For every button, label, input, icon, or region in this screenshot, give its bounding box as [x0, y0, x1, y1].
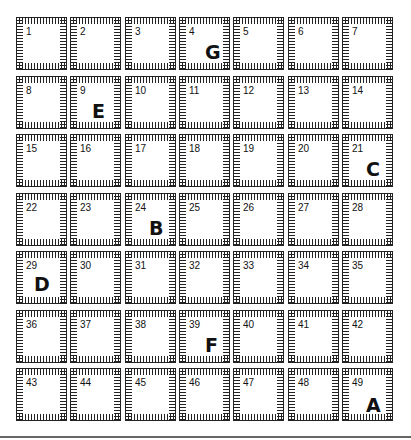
cell-number: 47	[243, 377, 254, 388]
cell-number: 6	[298, 26, 304, 37]
grid-cell-26: 26	[233, 193, 284, 246]
hatched-border-left	[288, 76, 295, 129]
hatched-border-right	[169, 134, 176, 187]
grid-cell-48: 48	[288, 368, 339, 421]
grid-cell-37: 37	[70, 310, 121, 363]
hatched-border-left	[342, 310, 349, 363]
cell-number: 42	[352, 319, 363, 330]
grid-cell-42: 42	[342, 310, 393, 363]
cell-number: 15	[26, 143, 37, 154]
grid-cell-4: 4G	[179, 17, 230, 70]
hatched-border-left	[233, 251, 240, 304]
cell-number: 29	[26, 260, 37, 271]
cell-number: 32	[189, 260, 200, 271]
hatched-border-right	[114, 251, 121, 304]
hatched-border-left	[342, 368, 349, 421]
cell-number: 36	[26, 319, 37, 330]
cell-number: 12	[243, 85, 254, 96]
grid-cell-19: 19	[233, 134, 284, 187]
grid-cell-40: 40	[233, 310, 284, 363]
hatched-border-left	[179, 76, 186, 129]
hatched-border-left	[125, 368, 132, 421]
cell-number: 24	[135, 202, 146, 213]
grid-cell-32: 32	[179, 251, 230, 304]
hatched-border-right	[386, 193, 393, 246]
cell-number: 35	[352, 260, 363, 271]
grid-cell-14: 14	[342, 76, 393, 129]
hatched-border-left	[16, 368, 23, 421]
grid-cell-35: 35	[342, 251, 393, 304]
hatched-border-left	[70, 76, 77, 129]
grid-cell-30: 30	[70, 251, 121, 304]
hatched-border-right	[60, 368, 67, 421]
hatched-border-right	[114, 193, 121, 246]
hatched-border-left	[179, 17, 186, 70]
grid-cell-44: 44	[70, 368, 121, 421]
grid-cell-3: 3	[125, 17, 176, 70]
grid-cell-21: 21C	[342, 134, 393, 187]
hatched-border-right	[114, 17, 121, 70]
hatched-border-left	[70, 368, 77, 421]
hatched-border-left	[342, 17, 349, 70]
hatched-border-left	[179, 310, 186, 363]
cell-number: 45	[135, 377, 146, 388]
hatched-border-right	[60, 76, 67, 129]
cell-number: 31	[135, 260, 146, 271]
hatched-border-left	[125, 310, 132, 363]
hatched-border-right	[332, 251, 339, 304]
hatched-border-left	[342, 134, 349, 187]
hatched-border-right	[332, 368, 339, 421]
hatched-border-left	[233, 310, 240, 363]
grid-cell-39: 39F	[179, 310, 230, 363]
hatched-border-left	[125, 251, 132, 304]
cell-number: 9	[80, 85, 86, 96]
hatched-border-left	[233, 368, 240, 421]
hatched-border-left	[288, 134, 295, 187]
cell-number: 5	[243, 26, 249, 37]
cell-letter-f: F	[205, 334, 218, 356]
grid-cell-28: 28	[342, 193, 393, 246]
cell-number: 18	[189, 143, 200, 154]
grid-cell-46: 46	[179, 368, 230, 421]
hatched-border-right	[169, 17, 176, 70]
grid-cell-41: 41	[288, 310, 339, 363]
hatched-border-left	[70, 134, 77, 187]
hatched-border-right	[60, 193, 67, 246]
grid-cell-6: 6	[288, 17, 339, 70]
cell-number: 40	[243, 319, 254, 330]
hatched-border-left	[125, 193, 132, 246]
hatched-border-left	[288, 310, 295, 363]
cell-number: 30	[80, 260, 91, 271]
hatched-border-right	[114, 368, 121, 421]
hatched-border-right	[169, 76, 176, 129]
hatched-border-right	[332, 134, 339, 187]
cell-number: 46	[189, 377, 200, 388]
cell-letter-c: C	[366, 158, 380, 180]
hatched-border-right	[277, 17, 284, 70]
cell-number: 43	[26, 377, 37, 388]
cell-number: 49	[352, 377, 363, 388]
hatched-border-left	[342, 251, 349, 304]
cell-number: 21	[352, 143, 363, 154]
cell-number: 44	[80, 377, 91, 388]
hatched-border-left	[342, 193, 349, 246]
grid-cell-29: 29D	[16, 251, 67, 304]
grid-cell-33: 33	[233, 251, 284, 304]
hatched-border-right	[223, 193, 230, 246]
cell-number: 38	[135, 319, 146, 330]
hatched-border-left	[233, 193, 240, 246]
grid-cell-43: 43	[16, 368, 67, 421]
hatched-border-left	[16, 251, 23, 304]
hatched-border-left	[233, 76, 240, 129]
hatched-border-left	[179, 134, 186, 187]
grid-cell-17: 17	[125, 134, 176, 187]
grid-cell-23: 23	[70, 193, 121, 246]
hatched-border-right	[332, 310, 339, 363]
hatched-border-right	[332, 17, 339, 70]
cell-letter-e: E	[92, 100, 105, 122]
cell-number: 20	[298, 143, 309, 154]
hatched-border-right	[277, 368, 284, 421]
hatched-border-left	[125, 134, 132, 187]
cell-number: 4	[189, 26, 195, 37]
hatched-border-left	[179, 193, 186, 246]
